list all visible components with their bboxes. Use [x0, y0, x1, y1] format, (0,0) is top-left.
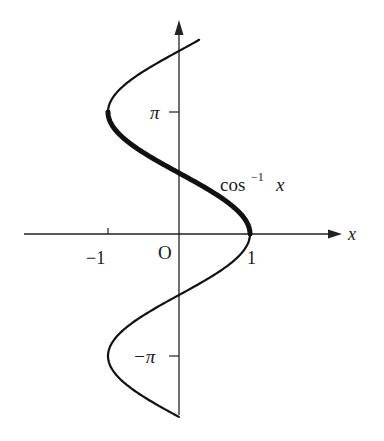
arccos-plot: x O −1 1 π −π cos −1 x: [0, 0, 384, 441]
x-axis-label: x: [347, 224, 356, 244]
x-tick-label-neg1: −1: [86, 248, 105, 268]
curve-label-base: cos: [220, 174, 245, 195]
y-tick-label-pi: π: [150, 102, 160, 123]
y-tick-label-negpi: −π: [133, 346, 156, 367]
x-tick-label-1: 1: [247, 248, 256, 268]
curve-label-sup: −1: [251, 170, 264, 184]
origin-label: O: [158, 242, 172, 263]
curve-label: cos −1 x: [220, 170, 285, 195]
y-axis-arrow-icon: [175, 20, 184, 35]
x-axis-arrow-icon: [328, 230, 342, 239]
curve-label-var: x: [275, 174, 285, 195]
